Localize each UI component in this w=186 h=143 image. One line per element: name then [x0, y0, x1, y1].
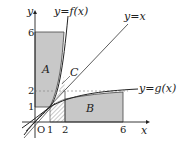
x-axis-label: x	[141, 124, 148, 137]
curve-g-label: y=g(x)	[138, 82, 176, 95]
region-b-label: B	[85, 102, 94, 115]
x-tick-1: 1	[47, 124, 53, 135]
y-axis-arrow-icon	[33, 10, 37, 14]
region-c-label: C	[70, 66, 79, 79]
x-tick-6: 6	[120, 124, 126, 135]
curve-f-label: y=f(x)	[53, 5, 88, 18]
x-tick-2: 2	[62, 124, 68, 135]
diagram: y x O 1 2 6 1 2 6 y=f(x) y=x y=g(x) A B …	[0, 0, 186, 143]
y-axis-label: y	[26, 5, 34, 18]
region-a-label: A	[41, 63, 50, 76]
y-tick-6: 6	[28, 27, 34, 38]
y-tick-2: 2	[28, 85, 34, 96]
origin-label: O	[37, 124, 45, 135]
identity-label: y=x	[123, 10, 146, 23]
y-tick-1: 1	[28, 101, 34, 112]
